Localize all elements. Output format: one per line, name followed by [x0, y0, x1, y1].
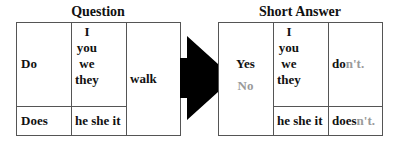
- yes-no: Yes No: [218, 56, 273, 94]
- no-label: No: [238, 78, 254, 94]
- pronoun: you: [279, 40, 299, 56]
- pronoun: I: [286, 24, 291, 40]
- yes-label: Yes: [236, 56, 255, 72]
- divider: [71, 22, 72, 136]
- pronouns-plural-a: I you we they: [277, 24, 301, 88]
- answer-negation: n't.: [346, 56, 364, 72]
- aux-do: Do: [21, 22, 37, 106]
- pronoun: they: [277, 72, 301, 88]
- divider: [328, 22, 329, 136]
- pronoun: they: [75, 72, 99, 88]
- answer-plural: don't.: [332, 22, 364, 106]
- pronouns-singular-a: he she it: [277, 106, 323, 136]
- divider: [273, 22, 274, 136]
- short-answer-title: Short Answer: [218, 4, 382, 20]
- answer-negation: n't.: [357, 113, 375, 129]
- arrow-right-icon: [178, 36, 220, 120]
- answer-singular: doesn't.: [332, 106, 375, 136]
- verb: walk: [130, 22, 157, 136]
- pronoun: we: [79, 56, 94, 72]
- aux-does: Does: [21, 106, 48, 136]
- pronouns-plural-q: I you we they: [75, 24, 99, 88]
- question-title: Question: [16, 4, 180, 20]
- pronoun: I: [84, 24, 89, 40]
- pronoun: you: [77, 40, 97, 56]
- divider: [126, 22, 127, 136]
- pronoun: we: [281, 56, 296, 72]
- pronouns-singular-q: he she it: [75, 106, 121, 136]
- answer-stem: does: [332, 113, 357, 129]
- answer-stem: do: [332, 56, 346, 72]
